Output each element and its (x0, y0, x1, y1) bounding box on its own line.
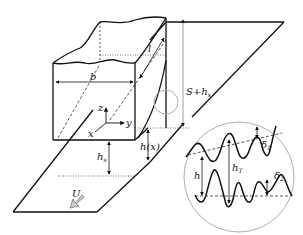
gap-function-label: h(x) (140, 141, 160, 152)
axis-y-label: y (125, 117, 132, 128)
roughness-inset: h hT δ1 δ2 (184, 122, 294, 232)
width-label: b (90, 71, 96, 82)
length-label: l (148, 43, 151, 54)
gap-min-label: hs (97, 151, 107, 163)
axis-z-label: z (97, 102, 104, 113)
slider-block (53, 17, 190, 140)
slider-bearing-diagram: z y x b l S+hs hs h(x) U h hT δ1 δ2 (0, 0, 303, 235)
coordinate-axes: z y x (88, 102, 132, 139)
axis-x-label: x (88, 128, 94, 139)
gap-total-label: S+hs (186, 86, 211, 98)
film-thickness-label: h (194, 170, 200, 181)
